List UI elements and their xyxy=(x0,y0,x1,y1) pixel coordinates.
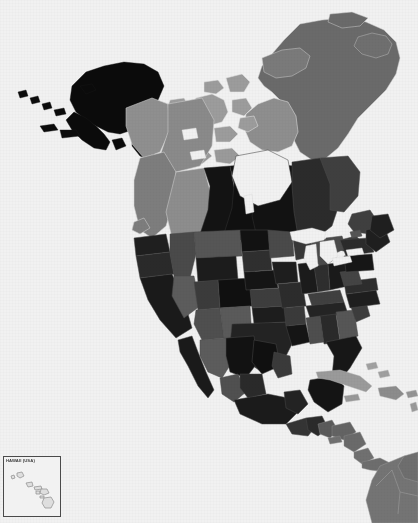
state-north-dakota xyxy=(240,230,270,252)
island-lanai xyxy=(36,491,40,494)
state-utah xyxy=(194,280,220,310)
state-arkansas xyxy=(284,306,306,326)
state-oklahoma xyxy=(252,306,288,324)
hawaii-islands-map xyxy=(4,464,60,516)
region-canada-west xyxy=(126,98,214,240)
state-wyoming xyxy=(196,256,238,282)
island-oahu xyxy=(26,482,33,487)
island-maui xyxy=(40,489,49,495)
great-slave-lake xyxy=(190,150,206,160)
state-minnesota xyxy=(268,230,294,258)
state-south-dakota xyxy=(242,250,272,272)
state-west-virginia xyxy=(340,270,362,286)
north-america-choropleth xyxy=(0,0,418,523)
island-kauai xyxy=(17,472,24,478)
island-hawaii xyxy=(42,497,54,508)
map-canvas: HAWAII (USA) xyxy=(0,0,418,523)
lake-winnipeg xyxy=(244,194,254,214)
state-montana xyxy=(194,230,242,258)
state-iowa xyxy=(272,262,298,284)
state-kansas xyxy=(250,288,284,308)
island-kahoolawe xyxy=(40,496,44,498)
hawaii-inset-box[interactable]: HAWAII (USA) xyxy=(3,456,61,517)
state-nebraska xyxy=(244,270,278,290)
great-bear-lake xyxy=(182,128,198,140)
island-niihau xyxy=(11,475,15,479)
state-oregon xyxy=(136,252,174,278)
